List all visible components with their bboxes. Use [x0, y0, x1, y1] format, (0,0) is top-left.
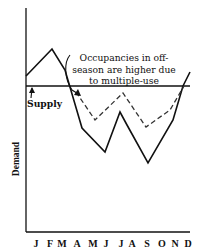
month-tick-label: M: [88, 238, 97, 249]
month-tick-label: F: [47, 238, 53, 249]
annotation-line-3: to multiple-use: [66, 75, 182, 87]
chart-canvas: [0, 0, 199, 252]
y-axis-label: Demand: [11, 137, 21, 181]
supply-arrowhead: [29, 87, 35, 93]
month-tick-label: D: [184, 238, 191, 249]
annotation-line-1: Occupancies in off-: [66, 52, 182, 64]
month-tick-label: A: [73, 238, 80, 249]
month-tick-label: O: [158, 238, 166, 249]
month-tick-label: J: [104, 238, 109, 249]
demand-dashed-line: [76, 86, 184, 127]
supply-label: Supply: [27, 98, 62, 109]
month-tick-label: J: [119, 238, 124, 249]
annotation-line-2: season are higher due: [66, 64, 182, 76]
month-tick-label: J: [34, 238, 39, 249]
month-tick-label: A: [128, 238, 135, 249]
month-tick-label: N: [171, 238, 178, 249]
annotation-text: Occupancies in off- season are higher du…: [66, 52, 182, 87]
month-tick-label: M: [57, 238, 66, 249]
month-tick-label: S: [144, 238, 150, 249]
